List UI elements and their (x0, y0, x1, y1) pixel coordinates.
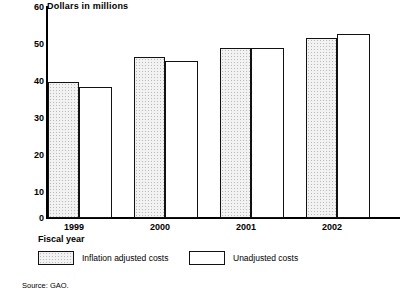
chart-legend: Inflation adjusted costs Unadjusted cost… (38, 250, 328, 270)
bar-2001-unadjusted (251, 48, 284, 218)
legend-swatch-shaded-icon (38, 251, 74, 265)
x-axis-tick-2000: 2000 (117, 222, 203, 232)
plot-area (46, 6, 400, 218)
legend-swatch-hollow-icon (189, 251, 225, 265)
y-axis-tick-10: 10 (20, 187, 44, 197)
bar-2002-inflation-adjusted (306, 38, 337, 218)
bar-1999-unadjusted (79, 87, 112, 218)
y-axis-tick-50: 50 (20, 39, 44, 49)
x-axis-title: Fiscal year (38, 234, 85, 244)
source-note: Source: GAO. (22, 281, 69, 290)
x-axis-tick-1999: 1999 (31, 222, 117, 232)
bar-2000-inflation-adjusted (134, 57, 165, 218)
legend-label-unadjusted: Unadjusted costs (233, 253, 298, 263)
y-axis-tick-60: 60 (20, 2, 44, 12)
legend-label-inflation-adjusted: Inflation adjusted costs (82, 253, 168, 263)
y-axis-tick-40: 40 (20, 76, 44, 86)
bar-chart-figure: Dollars in millions 60 50 40 30 20 10 0 … (0, 0, 417, 298)
bar-2002-unadjusted (337, 34, 370, 218)
bar-2000-unadjusted (165, 61, 198, 218)
legend-item-unadjusted: Unadjusted costs (189, 250, 298, 266)
legend-item-inflation-adjusted: Inflation adjusted costs (38, 250, 168, 266)
x-axis-tick-2001: 2001 (203, 222, 289, 232)
y-axis-tick-30: 30 (20, 113, 44, 123)
x-axis-tick-2002: 2002 (289, 222, 375, 232)
bar-2001-inflation-adjusted (220, 48, 251, 218)
y-axis-tick-20: 20 (20, 150, 44, 160)
bar-1999-inflation-adjusted (48, 82, 79, 218)
